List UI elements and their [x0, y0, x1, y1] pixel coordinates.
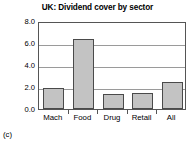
- bar: [73, 39, 94, 109]
- x-axis-tick-label: Drug: [97, 112, 127, 123]
- y-axis-tick-label: 0.0: [5, 106, 35, 114]
- y-axis-tick-label: 8.0: [5, 18, 35, 26]
- chart-title: UK: Dividend cover by sector: [0, 3, 195, 13]
- bar: [103, 94, 124, 109]
- y-axis-tick-label: 6.0: [5, 40, 35, 48]
- x-axis-tick-label: Mach: [38, 112, 68, 123]
- x-axis-tick-label: Food: [68, 112, 98, 123]
- bar: [43, 88, 64, 109]
- y-axis-tick-label: 4.0: [5, 62, 35, 70]
- bar: [162, 82, 183, 110]
- y-axis-tick-label: 2.0: [5, 84, 35, 92]
- plot-area: [38, 22, 186, 110]
- figure-caption: (c): [3, 130, 12, 140]
- x-axis-tick-labels: MachFoodDrugRetailAll: [38, 112, 186, 126]
- bar-series: [39, 23, 185, 109]
- x-axis-tick-label: All: [156, 112, 186, 123]
- x-axis-tick-label: Retail: [127, 112, 157, 123]
- bar: [132, 93, 153, 109]
- figure: UK: Dividend cover by sector 0.02.04.06.…: [0, 0, 195, 147]
